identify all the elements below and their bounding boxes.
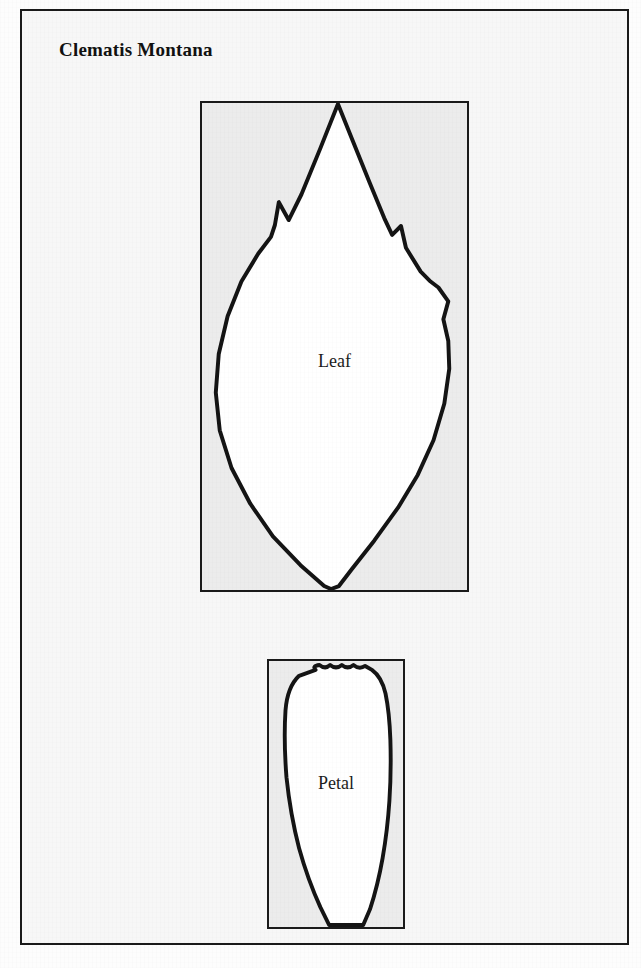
leaf-outline-drawing <box>202 103 467 590</box>
petal-outline-drawing <box>269 661 403 927</box>
figure-frame: Clematis Montana Leaf Petal <box>20 9 629 945</box>
leaf-specimen-box: Leaf <box>200 101 469 592</box>
petal-specimen-box: Petal <box>267 659 405 929</box>
scanned-page: Clematis Montana Leaf Petal <box>0 0 641 968</box>
page-title: Clematis Montana <box>59 39 213 61</box>
